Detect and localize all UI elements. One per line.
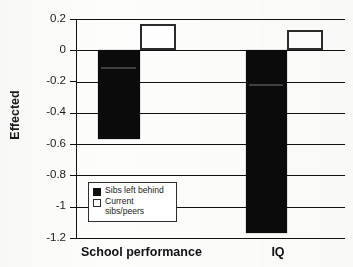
y-tick-label: 0.2: [22, 12, 66, 24]
y-tick-label: 0: [22, 43, 66, 55]
y-tick-label: -0.2: [22, 74, 66, 86]
gridline: [76, 19, 345, 20]
y-tick-label: -0.8: [22, 168, 66, 180]
legend: Sibs left behind Current sibs/peers: [88, 182, 177, 222]
y-axis-title: Effected: [8, 70, 22, 160]
legend-item-sibs-left-behind: Sibs left behind: [93, 186, 172, 196]
legend-swatch-filled-square-icon: [93, 188, 101, 196]
gridline: [76, 144, 345, 145]
x-category-label-iq: IQ: [248, 245, 308, 259]
bar-current-sibs-peers-school-performance: [140, 24, 176, 51]
y-tick-label: -1.2: [22, 231, 66, 243]
y-tick-label: -1: [22, 199, 66, 211]
legend-label: Sibs left behind: [105, 186, 164, 196]
legend-label: Current sibs/peers: [105, 197, 144, 216]
y-tick-label: -0.4: [22, 105, 66, 117]
legend-item-current-sibs-peers: Current sibs/peers: [93, 197, 172, 216]
bar-sibs-left-behind-iq: [246, 50, 287, 233]
chart-figure: Effected 0.2 0 -0.2 -0.4 -0.6 -0.8 -1 -1…: [0, 0, 353, 267]
gridline: [76, 238, 345, 239]
x-category-label-school-performance: School performance: [81, 245, 201, 259]
bar-current-sibs-peers-iq: [287, 30, 323, 50]
y-tick-label: -0.6: [22, 137, 66, 149]
gridline: [76, 175, 345, 176]
bar-sibs-left-behind-school-performance: [98, 50, 140, 139]
legend-swatch-open-square-icon: [93, 199, 101, 207]
